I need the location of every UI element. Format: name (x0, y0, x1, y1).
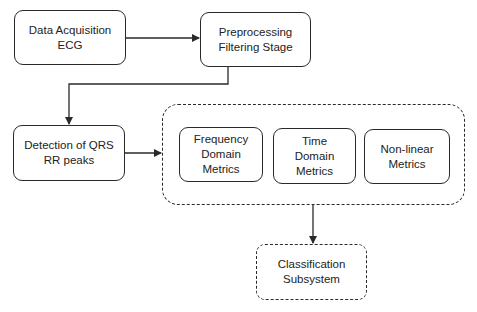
node-label: Data Acquisition ECG (29, 23, 111, 53)
node-classification-subsystem: Classification Subsystem (256, 244, 367, 300)
node-label: Classification Subsystem (278, 257, 346, 287)
node-label: Frequency Domain Metrics (194, 132, 248, 177)
node-label: Detection of QRS RR peaks (24, 138, 113, 168)
node-data-acquisition: Data Acquisition ECG (14, 10, 126, 65)
node-label: Time Domain Metrics (295, 134, 335, 179)
node-label: Non-linear Metrics (380, 142, 433, 172)
node-preprocessing: Preprocessing Filtering Stage (200, 12, 311, 67)
node-frequency-domain-metrics: Frequency Domain Metrics (179, 127, 263, 182)
node-detection: Detection of QRS RR peaks (13, 125, 125, 181)
node-nonlinear-metrics: Non-linear Metrics (364, 129, 450, 184)
node-label: Preprocessing Filtering Stage (218, 25, 292, 55)
node-time-domain-metrics: Time Domain Metrics (273, 128, 356, 184)
